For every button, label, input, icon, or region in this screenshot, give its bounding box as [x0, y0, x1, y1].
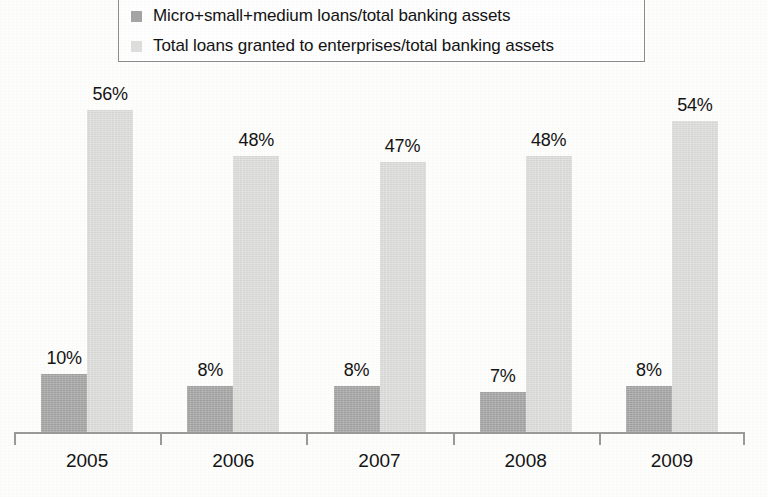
bar-value-label-2005-series2: 56%: [75, 84, 145, 105]
bar-value-label-2007-series2: 47%: [368, 136, 438, 157]
chart-page: Micro+small+medium loans/total banking a…: [0, 0, 768, 497]
bar-2008-series2: [526, 156, 572, 432]
bar-2006-series1: [187, 386, 233, 432]
x-axis-label-2005: 2005: [14, 450, 160, 472]
bar-2009-series2: [672, 121, 718, 432]
bar-2009-series1: [626, 386, 672, 432]
bar-value-label-2008-series2: 48%: [514, 130, 584, 151]
bar-2007-series1: [334, 386, 380, 432]
x-axis-tick-4: [599, 432, 601, 445]
plot-area: 10%56%8%48%8%47%7%48%8%54% 2005200620072…: [0, 0, 768, 497]
bar-2005-series1: [41, 374, 87, 432]
x-axis-tick-3: [453, 432, 455, 445]
x-axis-label-2007: 2007: [306, 450, 452, 472]
bar-value-label-2006-series2: 48%: [221, 130, 291, 151]
x-axis-tick-0: [14, 432, 16, 445]
x-axis-tick-2: [306, 432, 308, 445]
x-axis-tick-end: [743, 432, 745, 445]
x-axis-label-2006: 2006: [160, 450, 306, 472]
bar-2006-series2: [233, 156, 279, 432]
bar-value-label-2009-series2: 54%: [660, 95, 730, 116]
x-axis-line: [14, 432, 745, 434]
x-axis-label-2008: 2008: [453, 450, 599, 472]
bar-2007-series2: [380, 162, 426, 432]
bar-2008-series1: [480, 392, 526, 432]
bar-2005-series2: [87, 110, 133, 432]
x-axis-label-2009: 2009: [599, 450, 745, 472]
x-axis-tick-1: [160, 432, 162, 445]
